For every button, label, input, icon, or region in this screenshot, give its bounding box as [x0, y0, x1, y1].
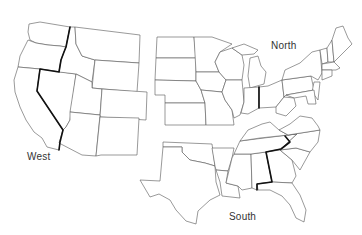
state-colorado [100, 89, 147, 120]
state-connecticut [322, 70, 332, 80]
state-new-york [282, 50, 322, 80]
region-label-west: West [27, 151, 50, 162]
state-michigan [248, 56, 266, 88]
region-north [155, 26, 352, 125]
region-west [14, 22, 147, 156]
region-label-north: North [271, 40, 296, 51]
us-regions-map [0, 0, 362, 235]
state-new-mexico [96, 117, 139, 156]
region-label-south: South [229, 211, 256, 222]
state-south-dakota [155, 58, 196, 81]
state-kansas [165, 103, 206, 125]
state-north-dakota [156, 37, 196, 58]
region-south [140, 116, 320, 224]
state-indiana [241, 87, 259, 114]
state-florida [257, 182, 306, 222]
state-maine [332, 26, 352, 62]
state-wyoming [92, 60, 139, 92]
